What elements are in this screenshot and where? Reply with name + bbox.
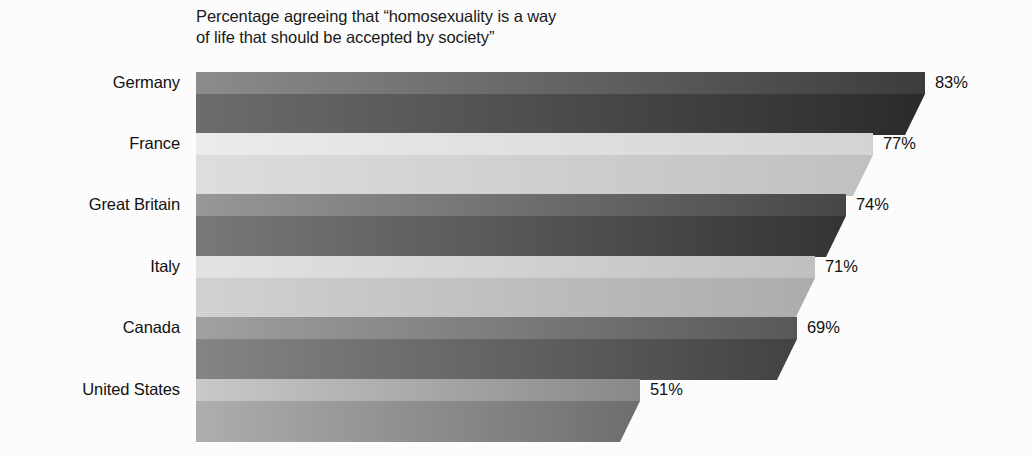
chart-container: Percentage agreeing that “homosexuality …	[0, 0, 1032, 456]
bar-top-face	[196, 194, 846, 216]
bar-value-label: 69%	[807, 318, 840, 337]
category-label: Italy	[0, 257, 180, 276]
bar-value-label: 83%	[935, 73, 968, 92]
bar-3d	[196, 317, 801, 382]
bar-top-face	[196, 379, 640, 401]
category-label: Great Britain	[0, 195, 180, 214]
bar-3d	[196, 194, 850, 259]
bar-value-label: 51%	[650, 380, 683, 399]
bar-top-face	[196, 133, 873, 155]
bar-value-label: 77%	[883, 134, 916, 153]
bar-3d	[196, 133, 877, 198]
bar-front-face	[196, 94, 925, 135]
category-label: United States	[0, 380, 180, 399]
bar-value-label: 71%	[825, 257, 858, 276]
bar-value-label: 74%	[856, 195, 889, 214]
category-label: Germany	[0, 73, 180, 92]
bar-top-face	[196, 256, 815, 278]
bar-top-face	[196, 317, 797, 339]
category-label: Canada	[0, 318, 180, 337]
bar-front-face	[196, 339, 797, 380]
bar-3d	[196, 72, 929, 137]
bar-3d	[196, 256, 819, 321]
category-label: France	[0, 134, 180, 153]
bar-front-face	[196, 155, 873, 196]
bar-front-face	[196, 278, 815, 319]
bar-3d	[196, 379, 644, 444]
bar-chart-plot-area: Germany83%France77%Great Britain74%Italy…	[0, 0, 1032, 456]
bar-front-face	[196, 216, 846, 257]
bar-front-face	[196, 401, 640, 442]
bar-top-face	[196, 72, 925, 94]
